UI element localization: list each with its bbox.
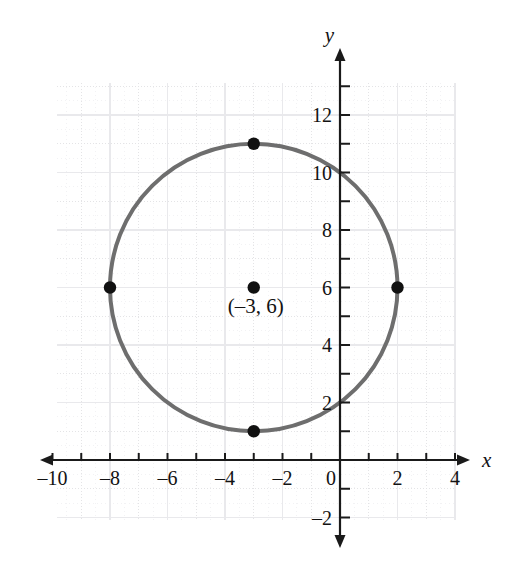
x-axis-label: x <box>481 448 492 472</box>
y-tick-label: 10 <box>312 162 332 184</box>
figure-canvas: –10–8–6–4–202412108642–2 (–3, 6)xy <box>0 0 518 567</box>
y-axis-label: y <box>323 23 335 47</box>
plot-point-center <box>248 281 260 293</box>
y-tick-label: 4 <box>322 334 332 356</box>
center-point-label: (–3, 6) <box>228 294 284 318</box>
x-tick-label: –8 <box>99 467 120 489</box>
coordinate-plane-graph: –10–8–6–4–202412108642–2 (–3, 6)xy <box>0 0 518 567</box>
plot-point-left <box>104 281 116 293</box>
y-tick-label: 2 <box>322 392 332 414</box>
x-tick-label: –10 <box>37 467 68 489</box>
y-tick-label: 6 <box>322 277 332 299</box>
x-tick-label: 2 <box>393 467 403 489</box>
plot-point-right <box>391 281 403 293</box>
x-tick-label: –2 <box>272 467 293 489</box>
x-tick-label: –6 <box>157 467 178 489</box>
x-tick-label: 0 <box>326 467 336 489</box>
plot-point-top <box>248 138 260 150</box>
figure-text: (–3, 6)xy <box>228 23 492 472</box>
y-tick-label: –2 <box>311 507 332 529</box>
x-tick-label: –4 <box>214 467 235 489</box>
plot-point-bottom <box>248 425 260 437</box>
y-tick-label: 8 <box>322 219 332 241</box>
x-tick-label: 4 <box>450 467 460 489</box>
y-tick-label: 12 <box>312 104 332 126</box>
